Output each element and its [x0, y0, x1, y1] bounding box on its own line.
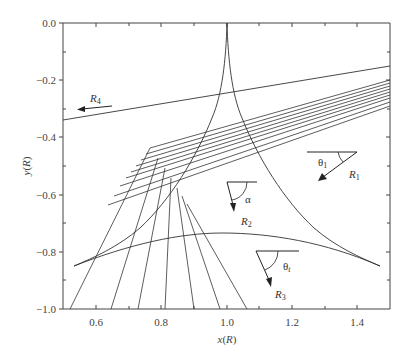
r4-label: R4 [89, 92, 101, 106]
arrow-left-icon [77, 106, 85, 112]
y-tick-label: −0.8 [36, 246, 56, 258]
arrow-down-icon [266, 277, 272, 287]
caustic-curves [74, 23, 380, 266]
annotation-r2: α R2 [227, 182, 257, 229]
y-tick-label: −0.4 [36, 131, 56, 143]
ray-r4 [63, 66, 390, 120]
rays-r2 [70, 148, 247, 309]
y-tick-label: 0.0 [42, 17, 56, 29]
plot-frame [63, 23, 390, 309]
x-tick-label: 1.4 [350, 316, 364, 328]
r1-label: R1 [348, 168, 360, 182]
caustic-left-branch [74, 23, 227, 266]
r3-label: R3 [274, 288, 286, 302]
x-tick-label: 0.8 [154, 316, 168, 328]
y-tick-label: −0.2 [36, 74, 56, 86]
x-tick-label: 0.6 [89, 316, 103, 328]
r2-label: R2 [240, 215, 252, 229]
y-tick-label: −1.0 [36, 303, 56, 315]
arrow-down-icon [230, 203, 236, 212]
arrow-down-left-icon [318, 173, 327, 181]
alpha-label: α [245, 193, 251, 205]
y-tick-label: −0.6 [36, 189, 56, 201]
annotation-r3: θt R3 [256, 251, 299, 302]
y-axis-title: y(R) [20, 156, 33, 176]
x-tick-label: 1.2 [285, 316, 299, 328]
y-tick-labels: 0.0 −0.2 −0.4 −0.6 −0.8 −1.0 [36, 17, 56, 315]
x-tick-labels: 0.6 0.8 1.0 1.2 1.4 [89, 316, 364, 328]
ray-caustic-chart: 0.6 0.8 1.0 1.2 1.4 0.0 −0.2 −0.4 −0.6 −… [0, 0, 413, 359]
annotation-r1: θ1 R1 [307, 152, 360, 182]
theta1-label: θ1 [318, 156, 327, 170]
x-axis-title: x(R) [217, 333, 237, 346]
theta-t-label: θt [283, 260, 291, 274]
rays-r1 [108, 80, 390, 205]
annotation-r4: R4 [77, 92, 112, 112]
x-tick-label: 1.0 [220, 316, 234, 328]
caustic-right-branch [227, 23, 380, 266]
caustic-bottom-arc [74, 233, 380, 266]
